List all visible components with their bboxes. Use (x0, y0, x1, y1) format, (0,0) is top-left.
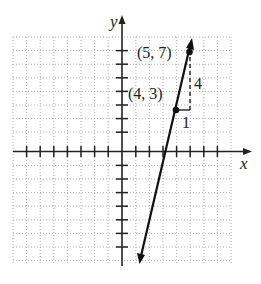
point-a-label: (4, 3) (128, 85, 163, 103)
point-b-label: (5, 7) (137, 44, 172, 62)
y-axis-arrow-icon (119, 15, 126, 24)
line-arrow-up-icon (186, 38, 194, 50)
point-5-7 (186, 49, 193, 56)
graph: y x (5, 7) (4, 3) 4 1 (0, 0, 261, 284)
line-arrow-down-icon (137, 253, 145, 264)
x-axis-label: x (239, 154, 248, 173)
axes (13, 15, 252, 266)
run-label: 1 (182, 114, 190, 131)
rise-label: 4 (194, 75, 202, 92)
point-4-3 (173, 107, 180, 114)
y-axis-label: y (108, 12, 118, 31)
